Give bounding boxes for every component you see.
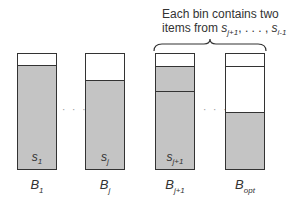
bin-label: B1	[17, 177, 57, 195]
ellipsis: · · ·	[62, 104, 88, 115]
item-block-upper	[156, 66, 194, 91]
item-block	[226, 112, 264, 169]
caption: Each bin contains two items from sj+1, .…	[162, 7, 287, 40]
bin-label: Bopt	[225, 177, 265, 195]
bin-bopt	[225, 53, 265, 170]
bin-b1: s1	[17, 53, 57, 170]
item-label: s1	[18, 150, 56, 166]
bin-label: Bj+1	[155, 177, 195, 195]
curly-brace-icon	[152, 38, 268, 52]
bin-label: Bj	[85, 177, 125, 195]
bin-bj-plus-1: sj+1	[155, 53, 195, 170]
empty-divider	[226, 66, 264, 112]
bin-bj: sj	[85, 53, 125, 170]
item-label: sj	[86, 150, 124, 166]
item-label: sj+1	[156, 150, 194, 166]
caption-line-1: Each bin contains two	[162, 7, 287, 21]
